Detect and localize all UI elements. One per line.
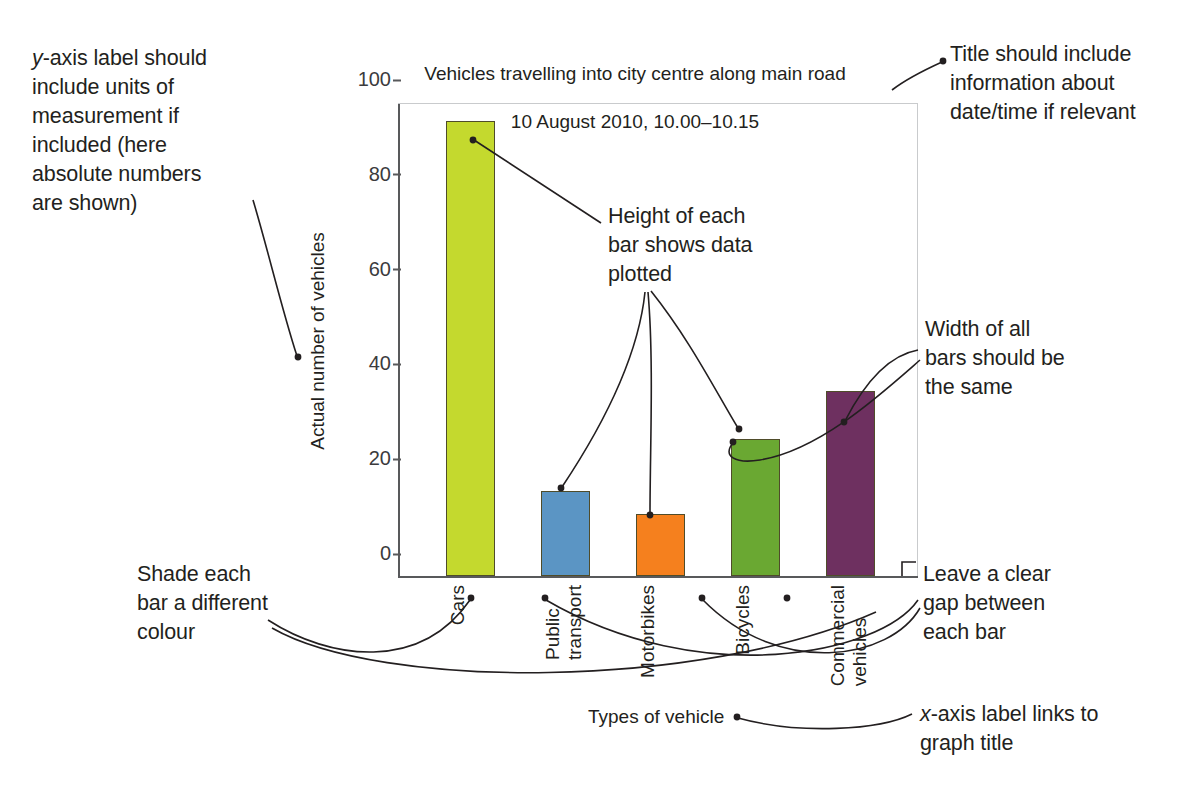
annotation-y-axis-label: y-axis label should include units of mea… — [32, 44, 302, 218]
annotation-x-axis-text: -axis label links to graph title — [920, 702, 1098, 755]
y-tick-0: 0 — [380, 542, 400, 565]
x-category-label-bicycles: Bicycles — [732, 585, 754, 655]
annotation-x-axis-italic-letter: x — [920, 702, 931, 726]
x-category-label-public-transport: Public transport — [542, 585, 586, 660]
annotation-y-axis-text: -axis label should include units of meas… — [32, 46, 207, 215]
annotation-bar-width: Width of all bars should be the same — [925, 315, 1145, 402]
annotation-bar-height: Height of each bar shows data plotted — [608, 202, 808, 289]
y-axis-label: Actual number of vehicles — [307, 232, 329, 450]
leader-dot-tick-bicycles — [699, 595, 706, 602]
x-category-label-commercial-vehicles: Commercial vehicles — [827, 585, 871, 686]
leader-dot-y-axis-note — [295, 354, 302, 361]
leader-dot-x-axis-label — [734, 714, 741, 721]
leader-dot-tick-commercial — [784, 595, 791, 602]
chart-title-line-1: Vehicles travelling into city centre alo… — [355, 62, 915, 86]
x-category-label-cars: Cars — [447, 585, 469, 625]
leader-dot-title-note — [940, 58, 947, 65]
annotation-y-axis-italic-letter: y — [32, 46, 43, 70]
y-tick-100: 100 — [358, 68, 400, 91]
annotation-bar-colour: Shade each bar a different colour — [137, 560, 357, 647]
annotated-bar-chart-figure: Vehicles travelling into city centre alo… — [0, 0, 1202, 792]
bar-bicycles: Bicycles — [731, 439, 780, 577]
bar-commercial-vehicles: Commercial vehicles — [826, 391, 875, 576]
y-tick-40: 40 — [369, 352, 400, 375]
x-axis-label: Types of vehicle — [588, 706, 724, 728]
leader-y-axis-note — [253, 200, 297, 356]
bar-cars: Cars — [446, 121, 495, 576]
x-category-label-motorbikes: Motorbikes — [637, 585, 659, 678]
y-tick-20: 20 — [369, 447, 400, 470]
annotation-bar-gap: Leave a clear gap between each bar — [923, 560, 1143, 647]
annotation-x-axis-label: x-axis label links to graph title — [920, 700, 1190, 758]
annotation-title: Title should include information about d… — [950, 40, 1200, 127]
plot-area: 0 20 40 60 80 100 Cars Public transport … — [398, 104, 918, 578]
leader-x-axis-note — [738, 714, 912, 729]
y-tick-80: 80 — [369, 162, 400, 185]
bar-public-transport: Public transport — [541, 491, 590, 576]
bar-motorbikes: Motorbikes — [636, 514, 685, 576]
y-tick-60: 60 — [369, 257, 400, 280]
